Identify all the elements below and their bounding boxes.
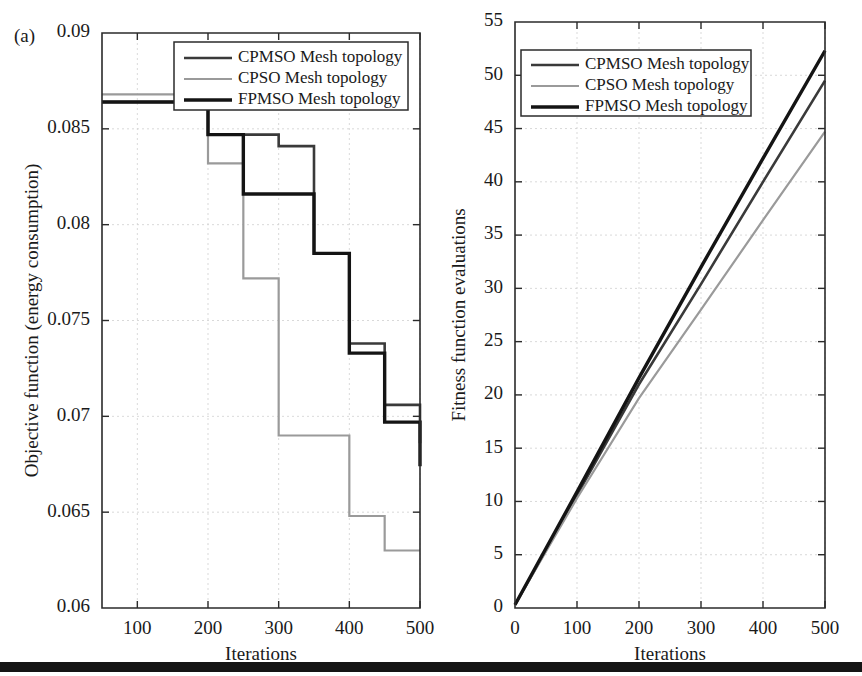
y-axis-title: Fitness function evaluations — [448, 208, 469, 421]
x-tick-label: 100 — [563, 617, 592, 638]
x-tick-label: 500 — [811, 617, 840, 638]
legend-label-cpmso: CPMSO Mesh topology — [585, 54, 750, 73]
y-tick-label: 15 — [484, 436, 503, 457]
x-tick-label: 300 — [264, 617, 293, 638]
y-tick-label: 0.085 — [47, 116, 90, 137]
y-tick-label: 20 — [484, 382, 503, 403]
y-tick-label: 5 — [494, 542, 504, 563]
y-tick-label: 45 — [484, 116, 503, 137]
y-tick-label: 55 — [484, 9, 503, 30]
legend-label-fpmso: FPMSO Mesh topology — [238, 89, 401, 108]
x-tick-label: 400 — [749, 617, 778, 638]
chart-panel-right: 05101520253035404550550100200300400500It… — [431, 0, 862, 676]
panel-tag-a: (a) — [14, 25, 35, 47]
x-tick-label: 500 — [406, 617, 435, 638]
series-line-cpso — [515, 132, 825, 605]
y-tick-label: 35 — [484, 222, 503, 243]
y-tick-label: 10 — [484, 489, 503, 510]
x-tick-label: 0 — [510, 617, 520, 638]
y-tick-label: 0.065 — [47, 500, 90, 521]
y-axis-title: Objective function (energy consumption) — [21, 164, 43, 478]
x-axis-title: Iterations — [634, 643, 706, 664]
y-tick-label: 0.08 — [57, 212, 90, 233]
y-tick-label: 0 — [494, 595, 504, 616]
y-tick-label: 25 — [484, 329, 503, 350]
series-line-fpmso — [102, 102, 420, 466]
legend-label-cpmso: CPMSO Mesh topology — [238, 47, 403, 66]
left-chart-svg: 0.060.0650.070.0750.080.0850.09100200300… — [0, 0, 431, 676]
y-tick-label: 0.06 — [57, 595, 90, 616]
right-chart-svg: 05101520253035404550550100200300400500It… — [431, 0, 862, 676]
series-line-cpmso — [102, 102, 420, 443]
x-tick-label: 100 — [123, 617, 152, 638]
x-axis-title: Iterations — [225, 643, 297, 664]
legend-label-cpso: CPSO Mesh topology — [238, 68, 388, 87]
legend-label-fpmso: FPMSO Mesh topology — [585, 96, 748, 115]
legend-label-cpso: CPSO Mesh topology — [585, 75, 735, 94]
series-line-cpso — [102, 94, 420, 550]
y-tick-label: 0.09 — [57, 20, 90, 41]
series-line-fpmso — [515, 51, 825, 605]
x-tick-label: 200 — [625, 617, 654, 638]
y-tick-label: 30 — [484, 276, 503, 297]
y-tick-label: 40 — [484, 169, 503, 190]
y-tick-label: 0.07 — [57, 404, 90, 425]
x-tick-label: 300 — [687, 617, 716, 638]
y-tick-label: 50 — [484, 63, 503, 84]
x-tick-label: 400 — [335, 617, 364, 638]
y-tick-label: 0.075 — [47, 308, 90, 329]
chart-panel-left: 0.060.0650.070.0750.080.0850.09100200300… — [0, 0, 431, 676]
figure-root: 0.060.0650.070.0750.080.0850.09100200300… — [0, 0, 862, 676]
bottom-rule-divider — [0, 662, 862, 672]
x-tick-label: 200 — [194, 617, 223, 638]
